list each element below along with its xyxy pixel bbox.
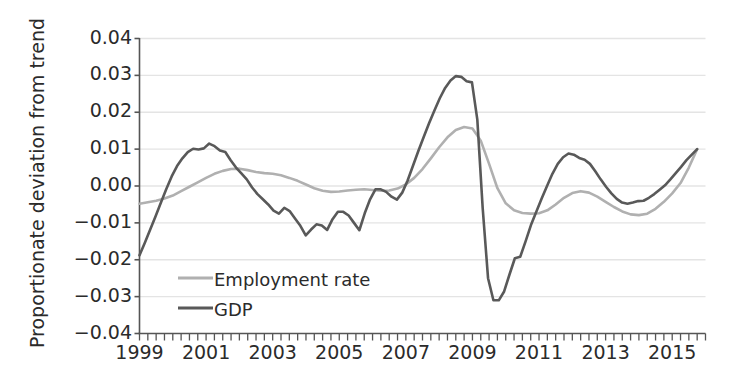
chart-figure: Proportionate deviation from trend 0.040… xyxy=(0,0,744,385)
legend-label-employment-rate: Employment rate xyxy=(214,269,370,290)
plot-canvas xyxy=(0,0,744,385)
legend-label-gdp: GDP xyxy=(214,299,253,320)
